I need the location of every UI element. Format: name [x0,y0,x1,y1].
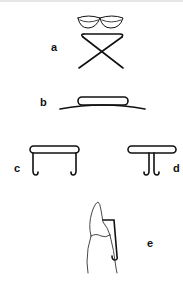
diagram-canvas [0,0,183,286]
panel-a-figure [78,16,123,68]
label-a: a [51,42,57,53]
label-e: e [147,238,153,249]
label-b: b [40,97,47,108]
label-c: c [14,163,20,174]
panel-e-figure [87,202,117,273]
panel-d-figure [128,146,176,175]
panel-c-figure [30,146,79,175]
panel-b-figure [60,97,145,109]
label-d: d [173,163,180,174]
